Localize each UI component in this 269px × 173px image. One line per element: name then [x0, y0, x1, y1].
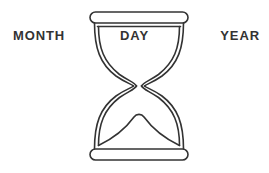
hourglass-top-cap	[90, 12, 188, 23]
hourglass-outer-right-wall-lower	[145, 86, 184, 149]
label-year: YEAR	[220, 29, 260, 42]
hourglass-date-diagram: MONTH DAY YEAR	[0, 0, 269, 173]
hourglass-base-bar	[90, 149, 188, 160]
hourglass-sand-mound	[99, 114, 180, 145]
hourglass-icon	[0, 0, 269, 173]
hourglass-outer-left-wall-lower	[95, 86, 134, 149]
